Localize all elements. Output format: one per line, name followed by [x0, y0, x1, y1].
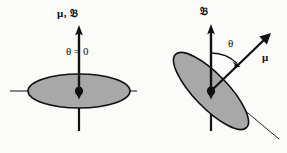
right-angle-label: θ — [228, 38, 233, 49]
left-angle-label: θ = 0 — [66, 46, 88, 57]
right-panel-group — [163, 24, 279, 139]
left-vector-label: μ, 𝔅 — [57, 8, 79, 19]
right-moment-label: μ — [262, 52, 268, 63]
physics-diagram-figure: μ, 𝔅 θ = 0 𝔅 θ μ — [0, 0, 287, 153]
left-panel-group — [10, 25, 137, 131]
diagram-canvas — [0, 0, 287, 153]
right-field-label: 𝔅 — [200, 6, 208, 17]
